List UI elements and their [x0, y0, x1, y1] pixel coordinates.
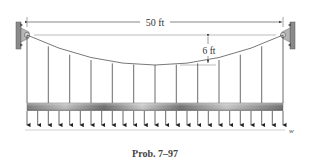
deck-beam	[27, 103, 283, 111]
hangers	[27, 35, 283, 103]
suspension-cable-diagram: 50 ft 6 ft	[0, 0, 311, 165]
sag-label: 6 ft	[203, 46, 216, 56]
load-intensity-label: w	[289, 127, 294, 135]
span-label: 50 ft	[146, 17, 165, 28]
problem-caption: Prob. 7–97	[132, 148, 178, 159]
distributed-load-arrows	[27, 111, 283, 125]
cable	[27, 35, 283, 65]
